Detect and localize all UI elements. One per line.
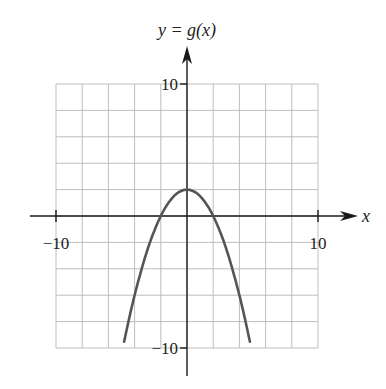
y-tick-label: −10 (151, 339, 178, 358)
chart: y = g(x) x −101010−10 (0, 0, 386, 389)
y-tick-label: 10 (161, 75, 178, 94)
x-tick-label: 10 (310, 234, 327, 253)
y-axis-title: y = g(x) (156, 20, 216, 41)
axes (30, 46, 358, 376)
x-axis-label: x (361, 206, 370, 226)
x-tick-label: −10 (43, 234, 70, 253)
